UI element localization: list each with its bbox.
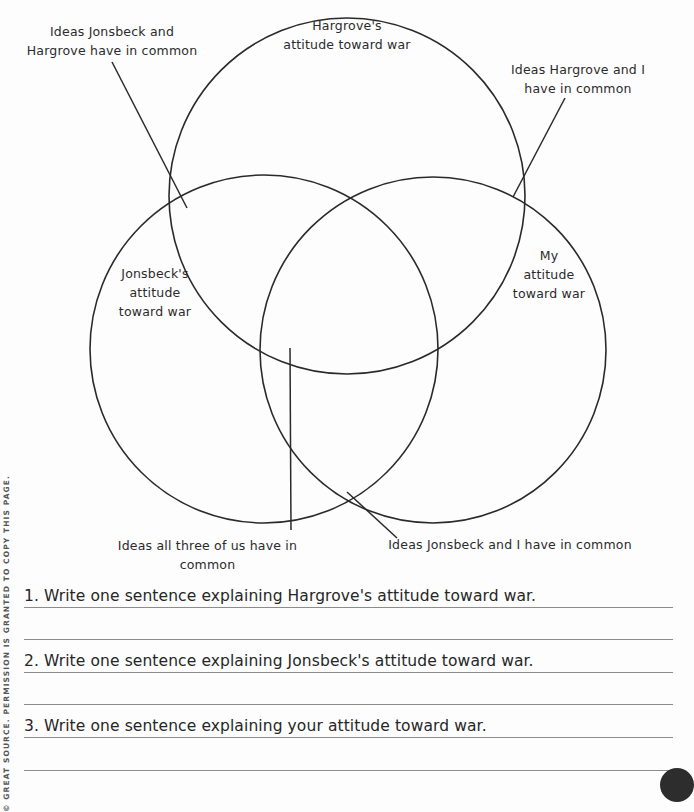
label-me-line2: attitude [494, 265, 604, 284]
answer-line-3b[interactable] [24, 770, 673, 771]
answer-line-2b[interactable] [24, 704, 673, 705]
label-jonsbeck-line1: Jonsbeck's [100, 264, 210, 283]
callout-all-three: Ideas all three of us have in common [115, 536, 300, 574]
leader-line-jonsbeck-hargrove [112, 62, 187, 208]
callout-jonsbeck-hargrove-line2: Hargrove have in common [22, 41, 202, 60]
answer-line-1a[interactable] [24, 607, 673, 608]
leader-line-jonsbeck-me [347, 492, 397, 538]
label-jonsbeck-line2: attitude [100, 283, 210, 302]
label-jonsbeck: Jonsbeck's attitude toward war [100, 264, 210, 321]
leader-line-hargrove-me [513, 98, 565, 197]
callout-jonsbeck-hargrove-line1: Ideas Jonsbeck and [22, 22, 202, 41]
question-2: 2. Write one sentence explaining Jonsbec… [24, 652, 534, 670]
label-hargrove-line1: Hargrove's [262, 16, 432, 35]
answer-line-3a[interactable] [24, 737, 673, 738]
callout-all-three-line2: common [115, 555, 300, 574]
callout-jonsbeck-me-line1: Ideas Jonsbeck and I have in common [360, 535, 660, 554]
callout-all-three-line1: Ideas all three of us have in [115, 536, 300, 555]
callout-jonsbeck-me: Ideas Jonsbeck and I have in common [360, 535, 660, 554]
copyright-notice: © GREAT SOURCE. PERMISSION IS GRANTED TO… [2, 475, 11, 812]
callout-jonsbeck-hargrove: Ideas Jonsbeck and Hargrove have in comm… [22, 22, 202, 60]
circle-jonsbeck [90, 175, 438, 523]
callout-hargrove-me: Ideas Hargrove and I have in common [498, 60, 658, 98]
answer-line-2a[interactable] [24, 672, 673, 673]
callout-hargrove-me-line1: Ideas Hargrove and I [498, 60, 658, 79]
circle-me [260, 177, 606, 523]
question-1: 1. Write one sentence explaining Hargrov… [24, 587, 536, 605]
callout-hargrove-me-line2: have in common [498, 79, 658, 98]
question-3: 3. Write one sentence explaining your at… [24, 717, 487, 735]
page-number-tab [660, 768, 694, 802]
label-me: My attitude toward war [494, 246, 604, 303]
label-hargrove: Hargrove's attitude toward war [262, 16, 432, 54]
label-me-line1: My [494, 246, 604, 265]
answer-line-1b[interactable] [24, 639, 673, 640]
label-hargrove-line2: attitude toward war [262, 35, 432, 54]
label-jonsbeck-line3: toward war [100, 302, 210, 321]
leader-line-all-three [290, 348, 291, 530]
label-me-line3: toward war [494, 284, 604, 303]
